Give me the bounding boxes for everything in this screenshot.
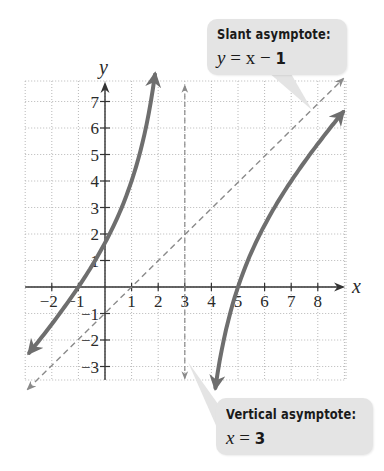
eq-num: 3 [255,430,265,448]
slant-callout-equation: y = x − 1 [217,47,286,69]
eq-mid: = x − [225,47,275,68]
vertical-asymptote-callout: Vertical asymptote: x = 3 [216,398,373,455]
tick-labels: −2−112345678−3−2−11234567 [40,93,322,377]
slant-asymptote-callout: Slant asymptote: y = x − 1 [207,19,347,75]
x-tick-label: 2 [154,292,163,311]
y-tick-label: −2 [81,331,99,350]
y-tick-label: 6 [91,119,100,138]
y-tick-label: 5 [91,146,100,165]
curve-right-branch [215,112,343,388]
x-tick-label: 7 [287,292,296,311]
x-tick-label: 1 [127,292,136,311]
x-axis-label: x [351,275,361,297]
eq-mid: = [234,427,254,448]
y-tick-label: 4 [91,172,100,191]
eq-num: 1 [275,50,285,68]
y-tick-label: 2 [91,225,100,244]
vertical-callout-pointer [188,362,218,430]
y-axis-label: y [97,56,108,79]
y-tick-label: −1 [81,305,99,324]
slant-callout-pointer [268,72,312,110]
slant-callout-title: Slant asymptote: [217,26,331,42]
x-tick-label: 4 [207,292,216,311]
grid-lines [25,81,346,380]
y-tick-label: −3 [81,358,99,377]
x-tick-label: −2 [40,292,58,311]
x-tick-label: 8 [314,292,323,311]
vertical-callout-equation: x = 3 [226,427,265,449]
vertical-callout-title: Vertical asymptote: [226,406,356,422]
y-tick-label: 3 [91,199,100,218]
x-tick-label: 6 [260,292,269,311]
y-tick-label: 7 [91,93,100,112]
